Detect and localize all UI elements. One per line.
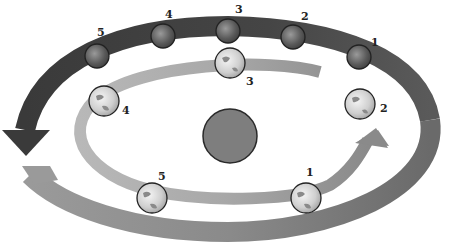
outer-planet-4-label: 4	[165, 8, 173, 21]
inner-planet-1: 1	[291, 166, 321, 213]
outer-planet-5-label: 5	[97, 26, 105, 39]
inner-planet-4-label: 4	[122, 104, 130, 117]
inner-planet-5: 5	[137, 170, 167, 213]
outer-planet-3-label: 3	[235, 3, 243, 16]
inner-planet-2-label: 2	[380, 102, 388, 115]
orbit-diagram: 1 2 3 4 5 3 2 4 5 1	[0, 0, 449, 244]
inner-planet-2: 2	[345, 89, 388, 119]
outer-planet-4: 4	[151, 8, 175, 48]
inner-planet-5-label: 5	[158, 170, 166, 183]
inner-planet-3-label: 3	[246, 75, 254, 88]
outer-planet-1-label: 1	[371, 36, 379, 49]
outer-planet-2-label: 2	[301, 10, 309, 23]
inner-planet-4: 4	[89, 86, 130, 117]
outer-planet-5: 5	[85, 26, 109, 68]
sun	[203, 109, 257, 163]
outer-orbit-arrowhead	[2, 130, 50, 156]
inner-planet-1-label: 1	[306, 166, 314, 179]
